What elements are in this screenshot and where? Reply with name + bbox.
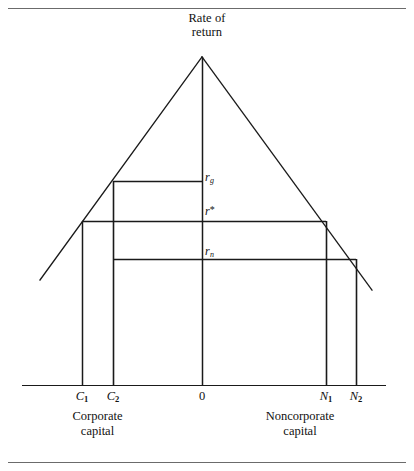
tick-label-c2: C2 <box>96 390 130 404</box>
caption-corporate-line2: capital <box>45 424 150 439</box>
rate-label-rn: rn <box>205 245 214 259</box>
rate-label-rstar: r* <box>205 205 215 218</box>
rate-label-rg-symbol: r <box>205 170 210 184</box>
tick-label-origin-symbol: 0 <box>199 389 205 403</box>
corporate-schedule-line <box>40 57 202 280</box>
tick-label-c1-subscript: 1 <box>84 394 88 404</box>
caption-noncorporate-capital: Noncorporate capital <box>235 409 365 439</box>
caption-corporate-capital: Corporate capital <box>45 409 150 439</box>
rate-label-rstar-symbol: r <box>205 204 210 218</box>
caption-noncorporate-line1: Noncorporate <box>235 409 365 424</box>
tick-label-c1: C1 <box>65 390 99 404</box>
tick-label-c2-subscript: 2 <box>115 394 119 404</box>
axis-title: Rate of return <box>0 12 414 39</box>
noncorporate-schedule-line <box>202 57 372 290</box>
rate-label-rn-subscript: n <box>210 250 214 259</box>
tick-label-n1-symbol: N <box>320 389 328 403</box>
axis-title-line2: return <box>0 26 414 40</box>
rate-label-rg-subscript: g <box>210 176 214 185</box>
rate-label-rstar-superscript: * <box>210 204 215 215</box>
tick-label-n1: N1 <box>309 390 343 404</box>
tick-label-n2-subscript: 2 <box>358 394 362 404</box>
axis-title-line1: Rate of <box>0 12 414 26</box>
tick-label-origin: 0 <box>185 390 219 404</box>
caption-noncorporate-line2: capital <box>235 424 365 439</box>
rate-label-rg: rg <box>205 171 214 185</box>
figure-container: Rate of return rg r* rn C1 C2 0 N1 N2 Co… <box>0 0 414 471</box>
tick-label-c1-symbol: C <box>76 389 84 403</box>
tick-label-n2-symbol: N <box>350 389 358 403</box>
caption-corporate-line1: Corporate <box>45 409 150 424</box>
tick-label-n2: N2 <box>339 390 373 404</box>
tick-label-n1-subscript: 1 <box>328 394 332 404</box>
tick-label-c2-symbol: C <box>107 389 115 403</box>
rate-label-rn-symbol: r <box>205 244 210 258</box>
